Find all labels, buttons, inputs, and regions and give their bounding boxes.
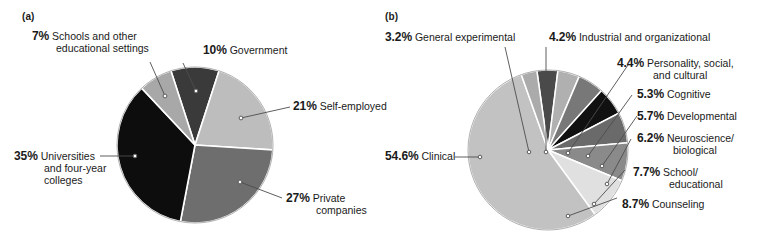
label-schools-pct: 7%	[32, 29, 49, 43]
label-private-companies-name-line2: companies	[316, 204, 367, 216]
dot-general-experimental	[527, 150, 531, 154]
label-counseling-pct: 8.7%	[622, 197, 649, 211]
dot-private	[238, 180, 242, 184]
label-cognitive: 5.3% Cognitive	[637, 88, 711, 100]
label-developmental-name: Developmental	[667, 110, 737, 122]
label-cognitive-name: Cognitive	[667, 88, 711, 100]
label-industrial: 4.2% Industrial and organizational	[549, 31, 710, 43]
pie-chart-b	[468, 70, 628, 230]
label-schools-name-line2: educational settings	[56, 42, 149, 54]
label-industrial-pct: 4.2%	[549, 30, 576, 44]
label-government-name: Government	[230, 44, 288, 56]
dot-counseling	[566, 214, 570, 218]
label-government: 10% Government	[203, 44, 287, 56]
label-school-educational-name: School/	[663, 166, 698, 178]
dot-developmental	[600, 164, 604, 168]
label-personality-name-line2: and cultural	[653, 69, 734, 81]
label-neuroscience-pct: 6.2%	[637, 131, 664, 145]
dot-self-employed	[239, 116, 243, 120]
dot-cognitive	[586, 154, 590, 158]
label-universities-name-line2: and four-year	[44, 162, 106, 174]
dot-schools	[163, 94, 167, 98]
label-schools: 7% Schools and other educational setting…	[32, 30, 149, 54]
dot-universities	[133, 154, 137, 158]
label-personality-name: Personality, social,	[647, 57, 734, 69]
label-cognitive-pct: 5.3%	[637, 87, 664, 101]
label-neuroscience-name: Neuroscience/	[667, 132, 734, 144]
label-universities-name: Universities	[41, 150, 95, 162]
label-private-companies: 27% Private companies	[286, 192, 367, 216]
dot-government	[194, 89, 198, 93]
panel-a-tag: (a)	[22, 11, 35, 22]
label-universities: 35% Universities and four-year colleges	[14, 150, 106, 187]
dot-industrial	[544, 150, 548, 154]
label-private-companies-name: Private	[313, 192, 346, 204]
label-personality-pct: 4.4%	[617, 56, 644, 70]
label-self-employed-name: Self-employed	[320, 100, 387, 112]
label-clinical: 54.6% Clinical	[385, 150, 455, 162]
label-school-educational: 7.7% School/ educational	[633, 166, 723, 190]
dot-school	[592, 202, 596, 206]
label-clinical-name: Clinical	[421, 150, 455, 162]
label-school-educational-name-line2: educational	[669, 178, 723, 190]
label-neuroscience-name-line2: biological	[673, 144, 734, 156]
label-universities-name-line3: colleges	[44, 174, 106, 186]
pie-slice-private-companies	[180, 145, 272, 223]
label-neuroscience: 6.2% Neuroscience/ biological	[637, 132, 734, 156]
label-general-experimental-name: General experimental	[415, 31, 515, 43]
label-universities-pct: 35%	[14, 149, 38, 163]
figure-two-pie-charts: (a) 7% Schools and other educational set…	[0, 0, 763, 231]
dot-clinical	[478, 155, 482, 159]
label-developmental: 5.7% Developmental	[637, 110, 737, 122]
label-personality: 4.4% Personality, social, and cultural	[617, 57, 734, 81]
label-school-educational-pct: 7.7%	[633, 165, 660, 179]
panel-b-tag: (b)	[385, 11, 398, 22]
label-industrial-name: Industrial and organizational	[579, 31, 710, 43]
label-counseling-name: Counseling	[652, 198, 705, 210]
dot-neuroscience	[605, 182, 609, 186]
label-general-experimental-pct: 3.2%	[385, 30, 412, 44]
label-self-employed-pct: 21%	[293, 99, 317, 113]
label-government-pct: 10%	[203, 43, 227, 57]
label-private-companies-pct: 27%	[286, 191, 310, 205]
label-schools-name: Schools and other	[52, 30, 137, 42]
label-clinical-pct: 54.6%	[385, 149, 419, 163]
label-counseling: 8.7% Counseling	[622, 198, 704, 210]
label-general-experimental: 3.2% General experimental	[385, 31, 515, 43]
dot-personality	[566, 151, 570, 155]
label-developmental-pct: 5.7%	[637, 109, 664, 123]
label-self-employed: 21% Self-employed	[293, 100, 387, 112]
